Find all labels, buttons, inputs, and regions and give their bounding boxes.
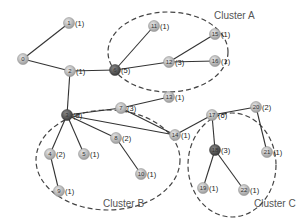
network-diagram: Cluster ACluster BCluster C 01(1)2(1)3(9… — [0, 0, 307, 219]
node-id-label: 15 — [212, 31, 219, 37]
node-id-label: 20 — [253, 104, 260, 110]
node-id-label: 11 — [151, 23, 158, 29]
node-14[interactable]: 14(1) — [170, 130, 191, 141]
node-11[interactable]: 11(1) — [149, 21, 170, 32]
edge-8-10 — [116, 138, 141, 174]
node-degree-label: (2) — [56, 150, 66, 159]
node-id-label: 16 — [212, 58, 219, 64]
node-degree-label: (2) — [262, 103, 272, 112]
node-degree-label: (1) — [160, 22, 170, 31]
node-9[interactable]: 9(1) — [54, 186, 75, 197]
node-id-label: 18 — [212, 147, 219, 153]
node-degree-label: (1) — [221, 57, 231, 66]
node-id-label: 10 — [138, 171, 145, 177]
edge-3-14 — [67, 115, 175, 135]
node-7[interactable]: 7(3) — [116, 103, 137, 114]
edge-0-2 — [23, 59, 70, 71]
node-degree-label: (3) — [127, 104, 137, 113]
cluster-a-label: Cluster A — [214, 10, 255, 21]
node-6[interactable]: 6(5) — [110, 65, 131, 76]
edge-18-22 — [215, 150, 244, 190]
node-degree-label: (1) — [209, 184, 219, 193]
node-degree-label: (1) — [90, 150, 100, 159]
edge-3-5 — [67, 115, 84, 154]
node-19[interactable]: 19(1) — [198, 183, 219, 194]
node-degree-label: (1) — [65, 187, 75, 196]
node-17[interactable]: 17(6) — [207, 110, 228, 121]
edge-3-4 — [50, 115, 67, 154]
node-id-label: 12 — [166, 59, 173, 65]
node-id-label: 13 — [166, 94, 173, 100]
node-0[interactable]: 0 — [18, 54, 29, 65]
edge-2-3 — [67, 71, 70, 115]
node-degree-label: (1) — [175, 93, 185, 102]
node-degree-label: (1) — [221, 30, 231, 39]
edge-20-21 — [256, 107, 267, 152]
node-12[interactable]: 12(3) — [164, 57, 185, 68]
node-id-label: 21 — [264, 149, 271, 155]
node-15[interactable]: 15(1) — [210, 29, 231, 40]
edge-6-11 — [115, 26, 154, 70]
node-16[interactable]: 16(1) — [210, 56, 231, 67]
node-degree-label: (1) — [75, 19, 85, 28]
node-degree-label: (1) — [147, 170, 157, 179]
node-degree-label: (3) — [175, 58, 185, 67]
node-5[interactable]: 5(1) — [79, 149, 100, 160]
nodes: 01(1)2(1)3(9)4(2)5(1)6(5)7(3)8(2)9(1)10(… — [18, 18, 283, 197]
node-degree-label: (9) — [73, 111, 83, 120]
node-id-label: 19 — [200, 185, 207, 191]
node-degree-label: (1) — [273, 148, 283, 157]
node-13[interactable]: 13(1) — [164, 92, 185, 103]
cluster-b-label: Cluster B — [103, 198, 144, 209]
node-id-label: 22 — [241, 187, 248, 193]
edge-0-1 — [23, 23, 69, 59]
node-degree-label: (5) — [121, 66, 131, 75]
node-18[interactable]: 18(3) — [210, 145, 231, 156]
node-degree-label: (6) — [218, 111, 228, 120]
cluster-c-label: Cluster C — [254, 198, 296, 209]
node-22[interactable]: 22(1) — [239, 185, 260, 196]
node-degree-label: (1) — [76, 67, 86, 76]
node-degree-label: (2) — [122, 134, 132, 143]
node-1[interactable]: 1(1) — [64, 18, 85, 29]
node-21[interactable]: 21(1) — [262, 147, 283, 158]
node-degree-label: (1) — [250, 186, 260, 195]
node-id-label: 14 — [172, 132, 179, 138]
node-4[interactable]: 4(2) — [45, 149, 66, 160]
node-20[interactable]: 20(2) — [251, 102, 272, 113]
edge-18-19 — [203, 150, 215, 188]
node-id-label: 17 — [209, 112, 216, 118]
node-degree-label: (3) — [221, 146, 231, 155]
node-degree-label: (1) — [181, 131, 191, 140]
node-2[interactable]: 2(1) — [65, 66, 86, 77]
node-3[interactable]: 3(9) — [62, 110, 83, 121]
edges — [23, 23, 267, 191]
node-10[interactable]: 10(1) — [136, 169, 157, 180]
node-8[interactable]: 8(2) — [111, 133, 132, 144]
